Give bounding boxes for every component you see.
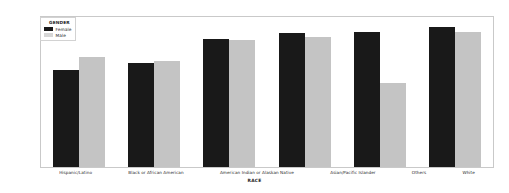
legend-entry-female[interactable]: Female bbox=[44, 27, 71, 32]
legend-title: GENDER bbox=[49, 20, 71, 25]
legend-entry-label: Female bbox=[56, 27, 72, 32]
legend-entry-label: Male bbox=[56, 33, 66, 38]
bar-female[interactable] bbox=[128, 63, 154, 167]
bar-female[interactable] bbox=[429, 27, 455, 167]
bar-group bbox=[429, 17, 481, 167]
bar-group bbox=[354, 17, 406, 167]
bar-male[interactable] bbox=[380, 83, 406, 167]
bars-container bbox=[41, 17, 493, 167]
bar-female[interactable] bbox=[53, 70, 79, 168]
legend: GENDER Female Male bbox=[40, 17, 76, 41]
bar-male[interactable] bbox=[305, 37, 331, 167]
bar-group bbox=[279, 17, 331, 167]
bar-male[interactable] bbox=[79, 57, 105, 167]
female-swatch-icon bbox=[44, 27, 53, 30]
y-axis: 010000200003000040000500006000070000 bbox=[0, 0, 40, 193]
bar-male[interactable] bbox=[229, 40, 255, 167]
bar-female[interactable] bbox=[203, 39, 229, 167]
bar-group bbox=[128, 17, 180, 167]
bar-male[interactable] bbox=[154, 61, 180, 167]
x-axis-title: RACE bbox=[0, 178, 509, 183]
legend-entry-male[interactable]: Male bbox=[44, 33, 71, 38]
bar-female[interactable] bbox=[354, 32, 380, 167]
bar-female[interactable] bbox=[279, 33, 305, 167]
male-swatch-icon bbox=[44, 33, 53, 36]
bar-male[interactable] bbox=[455, 32, 481, 167]
bar-group bbox=[203, 17, 255, 167]
bar-chart-figure: 010000200003000040000500006000070000 His… bbox=[0, 0, 509, 193]
